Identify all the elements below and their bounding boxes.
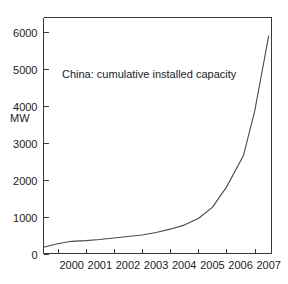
y-tick-label: 3000 — [13, 138, 37, 150]
y-tick-label: 1000 — [13, 212, 37, 224]
y-tick-label: 0 — [31, 249, 37, 261]
x-tick-label: 2000 — [59, 259, 83, 271]
y-tick-label: 5000 — [13, 64, 37, 76]
y-tick-label: 6000 — [13, 27, 37, 39]
x-tick-label: 2002 — [116, 259, 140, 271]
y-tick-label: 2000 — [13, 175, 37, 187]
y-tick-label: 4000 — [13, 101, 37, 113]
y-axis-label: MW — [10, 112, 30, 124]
x-tick-label: 2006 — [228, 259, 252, 271]
x-tick-label: 2007 — [256, 259, 280, 271]
x-tick-label: 2005 — [200, 259, 224, 271]
chart-figure: 0100020003000400050006000 20002001200220… — [0, 0, 288, 284]
x-tick-label: 2004 — [172, 259, 196, 271]
x-tick-label: 2003 — [144, 259, 168, 271]
chart-title: China: cumulative installed capacity — [62, 68, 237, 80]
line-chart: 0100020003000400050006000 20002001200220… — [0, 0, 288, 284]
x-tick-label: 2001 — [88, 259, 112, 271]
